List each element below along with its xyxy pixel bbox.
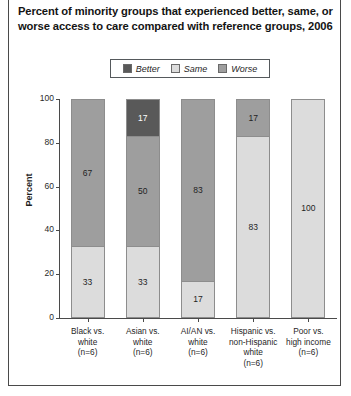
x-axis-tick-mark [308,318,309,322]
x-axis-category-label-line: Poor vs. [275,326,341,337]
y-axis-tick-mark [56,274,60,275]
x-axis-category-label-line: high income [275,337,341,348]
bar-segment-better: 17 [126,99,160,136]
bar-segment-same: 33 [126,246,160,318]
legend-label: Better [136,64,160,74]
bar-segment-worse: 50 [126,136,160,246]
y-axis-tick-label: 60 [45,181,54,191]
x-axis-tick-mark [143,318,144,322]
y-axis-tick-mark [56,143,60,144]
y-axis-tick-mark [56,318,60,319]
legend-swatch-same [171,64,180,73]
plot-area: 0204060801006733Black vs.white(n=6)17503… [60,99,336,318]
legend-item-same: Same [171,64,208,74]
legend-label: Worse [231,64,257,74]
y-axis-tick-mark [56,99,60,100]
bar-segment-value: 83 [248,223,257,232]
x-axis-category-label-line: (n=6) [220,358,286,369]
y-axis-tick: 40 [26,230,60,231]
legend-swatch-worse [218,64,227,73]
y-axis-tick-label: 100 [40,93,54,103]
bar-segment-value: 50 [138,187,147,196]
y-axis-tick: 0 [26,318,60,319]
legend-swatch-better [123,64,132,73]
bar-stack: 100 [291,99,325,318]
y-axis-title: Percent [24,160,34,220]
bar-segment-value: 33 [83,278,92,287]
chart-title: Percent of minority groups that experien… [18,4,336,34]
legend-item-worse: Worse [218,64,257,74]
x-axis-tick-mark [88,318,89,322]
x-axis-tick-mark [253,318,254,322]
y-axis-tick-label: 0 [49,312,54,322]
bar-segment-value: 33 [138,278,147,287]
bar-stack: 175033 [126,99,160,318]
y-axis-tick: 60 [26,187,60,188]
y-axis-tick-label: 20 [45,268,54,278]
figure-container: Percent of minority groups that experien… [0,0,351,396]
y-axis-tick-mark [56,230,60,231]
bar-segment-worse: 83 [181,99,215,281]
y-axis-tick-mark [56,187,60,188]
x-axis-category-label: Poor vs.high income(n=6) [275,326,341,358]
bar-segment-same: 83 [236,136,270,318]
chart-legend: BetterSameWorse [110,59,270,78]
y-axis-tick: 80 [26,143,60,144]
bar-segment-value: 17 [193,295,202,304]
bar-segment-worse: 17 [236,99,270,136]
x-axis-category-label-line: (n=6) [275,347,341,358]
bar-stack: 6733 [71,99,105,318]
y-axis-tick-label: 80 [45,137,54,147]
x-axis-tick-mark [198,318,199,322]
bar-segment-value: 17 [138,114,147,123]
bar-stack: 8317 [181,99,215,318]
bar-segment-value: 17 [248,114,257,123]
y-axis-tick: 100 [26,99,60,100]
bar-segment-same: 100 [291,99,325,318]
y-axis-tick: 20 [26,274,60,275]
bar-segment-value: 67 [83,169,92,178]
bar-segment-same: 33 [71,246,105,318]
bar-segment-value: 100 [301,204,315,213]
legend-item-better: Better [123,64,160,74]
bar-segment-same: 17 [181,281,215,318]
bar-segment-worse: 67 [71,99,105,246]
bar-stack: 1783 [236,99,270,318]
y-axis-tick-label: 40 [45,224,54,234]
bar-segment-value: 83 [193,186,202,195]
legend-label: Same [184,64,208,74]
